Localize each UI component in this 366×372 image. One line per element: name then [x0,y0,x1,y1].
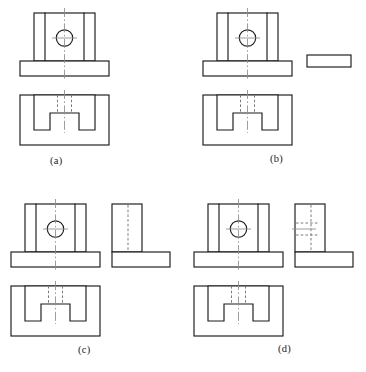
panel-c-front-view [11,199,100,272]
panel-d-top-view [194,281,283,336]
panel-c-drawing [0,186,183,372]
side-upright-outline [112,204,142,252]
figure-sheet: (a) [0,0,366,372]
panel-b: (b) [183,0,366,186]
side-base-plate [112,252,170,267]
panel-d: (d) [183,186,366,372]
panel-a-caption: (a) [50,155,63,166]
panel-b-front-view [203,8,292,81]
panel-a-drawing [0,0,183,186]
panel-a: (a) [0,0,183,186]
panel-b-side-view [307,55,351,67]
panel-c-side-view [112,204,170,267]
panel-d-front-view [194,199,283,272]
side-thin-rectangle [307,55,351,67]
panel-d-caption: (d) [278,343,291,354]
panel-b-caption: (b) [270,153,283,164]
panel-c-top-view [11,281,100,336]
panel-a-front-view [20,8,109,81]
side-base-plate [295,252,353,267]
panel-c-caption: (c) [78,344,91,355]
panel-a-top-view [20,90,109,145]
panel-d-side-view [292,204,353,267]
panel-d-drawing [183,186,366,372]
panel-c: (c) [0,186,183,372]
panel-b-top-view [203,90,292,145]
side-upright-outline [295,204,325,252]
